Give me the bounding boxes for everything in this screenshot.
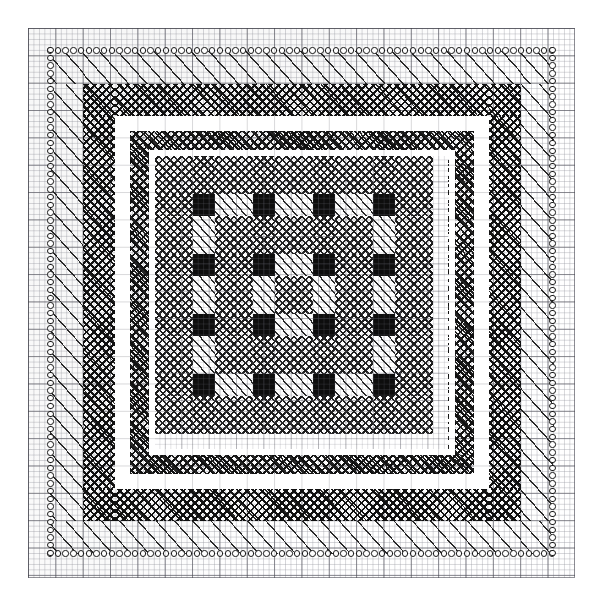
border-circle <box>47 418 53 424</box>
border-circle <box>47 140 53 146</box>
border-circle <box>418 550 424 556</box>
border-circle <box>62 550 68 556</box>
circle-border-right <box>548 47 557 557</box>
border-circle <box>549 117 555 123</box>
border-circle <box>549 62 555 68</box>
border-circle <box>541 47 547 53</box>
border-circle <box>194 47 200 53</box>
border-circle <box>147 47 153 53</box>
border-circle <box>394 47 400 53</box>
border-circle <box>47 101 53 107</box>
border-circle <box>225 550 231 556</box>
border-circle <box>47 194 53 200</box>
border-circle <box>549 395 555 401</box>
border-circle <box>47 441 53 447</box>
border-circle <box>47 93 53 99</box>
border-circle <box>86 550 92 556</box>
circle-border-top <box>47 46 556 55</box>
border-circle <box>47 78 53 84</box>
border-circle <box>47 70 53 76</box>
border-circle <box>549 333 555 339</box>
border-circle <box>549 178 555 184</box>
border-circle <box>333 550 339 556</box>
border-circle <box>116 550 122 556</box>
border-circle <box>549 341 555 347</box>
border-circle <box>526 47 532 53</box>
border-circle <box>472 550 478 556</box>
border-circle <box>47 302 53 308</box>
border-circle <box>171 550 177 556</box>
border-circle <box>549 217 555 223</box>
border-circle <box>433 47 439 53</box>
border-circle <box>549 194 555 200</box>
border-circle <box>549 248 555 254</box>
border-circle <box>510 550 516 556</box>
border-circle <box>549 271 555 277</box>
border-circle <box>402 47 408 53</box>
border-circle <box>155 550 161 556</box>
border-circle <box>549 496 555 502</box>
border-circle <box>549 148 555 154</box>
border-circle <box>348 550 354 556</box>
border-circle <box>147 550 153 556</box>
border-circle <box>47 295 53 301</box>
border-circle <box>47 349 53 355</box>
border-circle <box>47 202 53 208</box>
border-circle <box>456 47 462 53</box>
border-circle <box>549 457 555 463</box>
border-circle <box>533 550 539 556</box>
border-circle <box>549 202 555 208</box>
border-circle <box>549 356 555 362</box>
border-circle <box>286 550 292 556</box>
border-circle <box>549 426 555 432</box>
border-circle <box>124 47 130 53</box>
border-circle <box>47 248 53 254</box>
border-circle <box>379 47 385 53</box>
border-circle <box>70 47 76 53</box>
border-circle <box>325 550 331 556</box>
border-circle <box>502 550 508 556</box>
border-circle <box>47 457 53 463</box>
border-circle <box>549 55 555 61</box>
border-circle <box>356 550 362 556</box>
border-circle <box>549 240 555 246</box>
circle-border-left <box>46 47 55 557</box>
border-circle <box>433 550 439 556</box>
border-circle <box>425 550 431 556</box>
border-circle <box>363 47 369 53</box>
circle-border <box>38 38 565 566</box>
border-circle <box>379 550 385 556</box>
border-circle <box>47 465 53 471</box>
border-circle <box>232 47 238 53</box>
border-circle <box>201 550 207 556</box>
border-circle <box>163 47 169 53</box>
border-circle <box>47 403 53 409</box>
border-circle <box>549 47 555 53</box>
border-circle <box>47 449 53 455</box>
border-circle <box>549 349 555 355</box>
border-circle <box>549 380 555 386</box>
border-circle <box>248 47 254 53</box>
border-circle <box>163 550 169 556</box>
border-circle <box>518 550 524 556</box>
border-circle <box>209 550 215 556</box>
border-circle <box>232 550 238 556</box>
border-circle <box>549 550 555 556</box>
border-circle <box>309 550 315 556</box>
border-circle <box>549 279 555 285</box>
border-circle <box>549 542 555 548</box>
border-circle <box>132 47 138 53</box>
border-circle <box>263 550 269 556</box>
border-circle <box>47 333 53 339</box>
border-circle <box>294 47 300 53</box>
border-circle <box>371 47 377 53</box>
border-circle <box>340 550 346 556</box>
border-circle <box>124 550 130 556</box>
border-circle <box>549 449 555 455</box>
border-circle <box>549 441 555 447</box>
border-circle <box>178 47 184 53</box>
border-circle <box>248 550 254 556</box>
border-circle <box>286 47 292 53</box>
border-circle <box>549 403 555 409</box>
border-circle <box>47 171 53 177</box>
